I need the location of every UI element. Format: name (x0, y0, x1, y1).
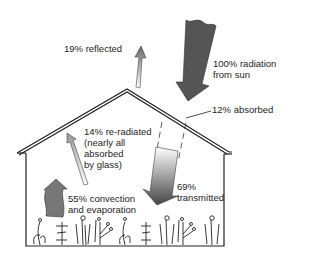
transmitted-arrow (143, 147, 178, 205)
sun-radiation-label-line2: from sun (213, 70, 250, 81)
absorbed-pointer-line (186, 111, 211, 118)
convection-arrow (44, 179, 67, 217)
absorbed-label: 12% absorbed (212, 105, 273, 116)
transmitted-label-line2: transmitted (177, 193, 224, 204)
reflected-arrow (135, 46, 146, 88)
convection-label-line2: and evaporation (68, 205, 136, 216)
reradiated-label-line2: (nearly all (84, 138, 125, 149)
reflected-label: 19% reflected (64, 44, 122, 55)
sun-radiation-label-line1: 100% radiation (213, 59, 276, 70)
reradiated-label-line4: by glass) (84, 160, 122, 171)
reradiated-label-line3: absorbed (84, 149, 124, 160)
transmitted-label-line1: 69% (177, 182, 196, 193)
convection-label-line1: 55% convection (68, 194, 135, 205)
sun-radiation-arrow (176, 20, 216, 101)
plants-row (34, 216, 219, 245)
reradiated-label-line1: 14% re-radiated (84, 127, 152, 138)
